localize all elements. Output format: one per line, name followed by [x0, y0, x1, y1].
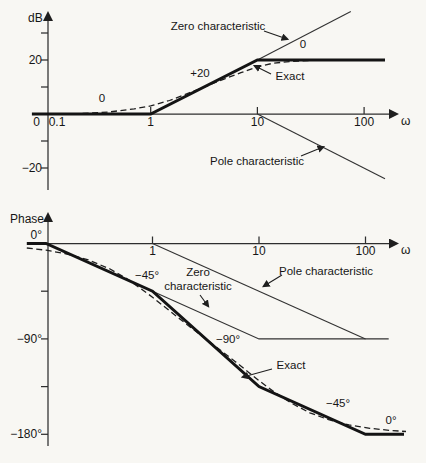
annotation-arrow [264, 275, 282, 286]
series-zero-characteristic [257, 11, 350, 60]
bode-figure: 0.111010020−200dBωZero characteristic0+2… [0, 0, 426, 463]
phase-plot: 1101000°−90°−180°Phaseω−45°Zerocharacter… [10, 212, 410, 446]
annotation-arrow [301, 147, 323, 156]
x-tick-label: 1 [147, 115, 154, 129]
y-tick-label: −180° [10, 427, 42, 441]
annotation-0: 0 [99, 92, 105, 104]
x-axis-title: ω [401, 114, 410, 128]
x-axis-title: ω [401, 243, 410, 257]
annotation-arrow [264, 31, 287, 39]
y-axis-title: dB [28, 11, 43, 25]
annotation-45: −45° [326, 397, 350, 409]
magnitude-plot: 0.111010020−200dBωZero characteristic0+2… [22, 11, 411, 190]
y-tick-label: −90° [17, 332, 42, 346]
annotation-arrow [243, 369, 272, 377]
annotation-pole-characteristic: Pole characteristic [210, 155, 304, 167]
x-tick-label: 100 [355, 244, 375, 258]
x-tick-label: 10 [252, 244, 266, 258]
x-tick-label: 0.1 [49, 115, 66, 129]
annotation-arrow [255, 66, 271, 74]
annotation-0: 0° [386, 414, 397, 426]
annotation-zero-characteristic: Zerocharacteristic [164, 266, 232, 292]
annotation-20: +20 [190, 67, 210, 79]
y-tick-label: 0° [31, 228, 43, 242]
series-zero-characteristic [153, 291, 389, 339]
annotation-0: 0 [300, 38, 306, 50]
annotation-pole-characteristic: Pole characteristic [279, 265, 373, 277]
origin-label: 0 [33, 115, 40, 129]
series-exact [83, 60, 348, 114]
y-tick-label: −20 [22, 161, 43, 175]
y-axis-title: Phase [10, 212, 44, 226]
annotation-zero-characteristic: Zero characteristic [171, 20, 266, 32]
y-tick-label: 20 [29, 53, 43, 67]
annotation-90: −90° [216, 333, 240, 345]
x-tick-label: 100 [354, 115, 374, 129]
annotation-exact: Exact [276, 70, 306, 82]
bode-figure-page: 0.111010020−200dBωZero characteristic0+2… [0, 0, 426, 463]
annotation-45: −45° [135, 269, 159, 281]
x-tick-label: 1 [149, 244, 156, 258]
annotation-arrow [200, 295, 208, 306]
annotation-exact: Exact [277, 359, 307, 371]
